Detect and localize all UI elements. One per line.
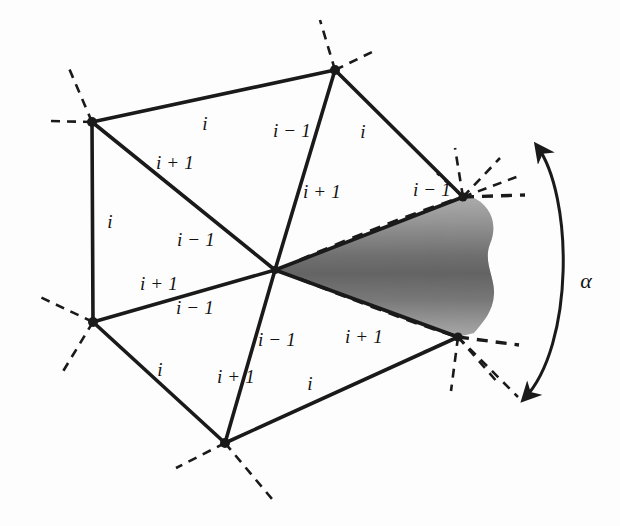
edge-label-im1-right-top: i − 1 bbox=[413, 179, 451, 201]
mesh-edge bbox=[225, 270, 275, 443]
edge-label-im1-lowerleft: i − 1 bbox=[176, 297, 214, 319]
vertex-dot bbox=[271, 266, 279, 274]
edge-label-ip1-center-top: i + 1 bbox=[303, 181, 341, 203]
vertex-dot bbox=[459, 193, 468, 202]
dashed-ray bbox=[62, 322, 93, 373]
shaded-wedge-shading-overlay bbox=[275, 196, 494, 337]
edge-label-i-left: i bbox=[107, 211, 112, 233]
shaded-wedge-group bbox=[275, 196, 494, 337]
vertex-dot bbox=[330, 65, 340, 75]
dashed-ray bbox=[458, 337, 518, 397]
dashed-ray bbox=[225, 443, 272, 499]
angle-arc-alpha bbox=[524, 146, 563, 399]
dashed-ray bbox=[451, 337, 458, 391]
mesh-edge bbox=[92, 122, 93, 322]
mesh-edge bbox=[225, 337, 458, 443]
mesh-edge bbox=[93, 322, 225, 443]
edge-label-ip1-lowerleft: i + 1 bbox=[140, 273, 178, 295]
edge-label-im1-midleft: i − 1 bbox=[177, 229, 215, 251]
vertex-dot bbox=[220, 438, 230, 448]
figure-canvas: i i − 1 i i + 1 i + 1 i − 1 i i − 1 i + … bbox=[0, 0, 620, 526]
dashed-ray bbox=[320, 20, 335, 70]
vertex-dot bbox=[87, 117, 97, 127]
dashed-ray bbox=[48, 121, 92, 122]
dashed-ray bbox=[40, 297, 93, 322]
edge-label-i-bottomleft: i bbox=[157, 359, 162, 381]
edge-label-ip1-bottom: i + 1 bbox=[217, 366, 255, 388]
wedge-boundary-top-extend bbox=[463, 195, 525, 197]
dashed-ray bbox=[176, 443, 225, 468]
edge-label-i-top: i bbox=[202, 113, 207, 135]
edge-label-i-bottom: i bbox=[307, 373, 312, 395]
mesh-edge bbox=[335, 70, 463, 197]
edge-label-im1-bottom: i − 1 bbox=[258, 329, 296, 351]
edge-label-ip1-bottomright: i + 1 bbox=[345, 326, 383, 348]
vertex-dot bbox=[88, 317, 98, 327]
edge-label-im1-top: i − 1 bbox=[273, 120, 311, 142]
angle-label-alpha: α bbox=[580, 268, 592, 294]
diagram-svg bbox=[0, 0, 620, 526]
wedge-boundary-bottom-extend bbox=[458, 337, 519, 345]
dashed-ray bbox=[458, 337, 498, 383]
edge-label-ip1-upperleft: i + 1 bbox=[156, 152, 194, 174]
angle-arc-group bbox=[524, 146, 563, 399]
vertex-dot bbox=[454, 333, 463, 342]
dashed-ray bbox=[335, 52, 372, 70]
edge-label-i-topright: i bbox=[360, 121, 365, 143]
mesh-edge bbox=[275, 70, 335, 270]
mesh-edge bbox=[92, 70, 335, 122]
dashed-ray bbox=[68, 66, 92, 122]
